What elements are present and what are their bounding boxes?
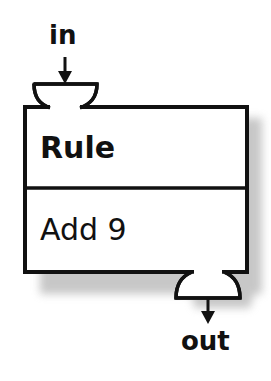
input-arrow-icon (58, 57, 72, 84)
output-label: out (181, 326, 230, 356)
function-machine-diagram (0, 0, 271, 381)
box-title: Rule (40, 130, 115, 165)
rule-text: Add 9 (40, 212, 127, 247)
input-label: in (49, 20, 76, 50)
